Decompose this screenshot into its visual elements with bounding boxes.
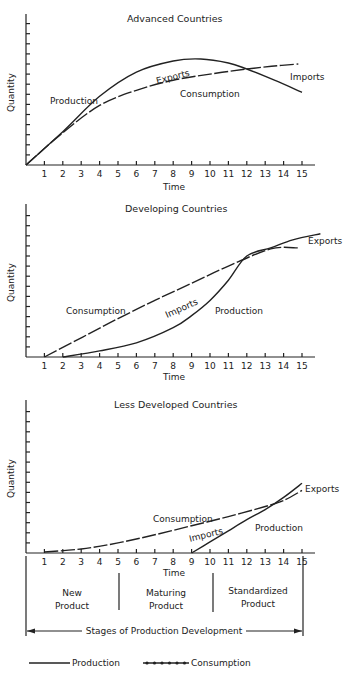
x-tick-label: 8	[170, 361, 176, 371]
stage-new-line2: Product	[55, 601, 90, 611]
series-production	[63, 234, 321, 357]
chart-3: 123456789101112131415	[26, 400, 315, 567]
arrow-right-icon	[294, 629, 302, 634]
stage-standardized-line1: Standardized	[228, 586, 287, 596]
x-tick-label: 2	[60, 361, 66, 371]
x-tick-label: 15	[296, 361, 307, 371]
chart3-xlabel: Time	[162, 568, 185, 578]
x-tick-label: 15	[296, 557, 307, 567]
x-tick-label: 13	[259, 557, 270, 567]
chart2-xlabel: Time	[162, 372, 185, 382]
x-tick-label: 13	[259, 361, 270, 371]
stages-caption: Stages of Production Development	[86, 626, 243, 636]
x-tick-label: 14	[278, 557, 290, 567]
stage-maturing-line1: Maturing	[146, 588, 186, 598]
x-tick-label: 10	[204, 169, 216, 179]
x-tick-label: 11	[223, 361, 234, 371]
chart3-label-consumption: Consumption	[153, 514, 213, 524]
x-tick-label: 8	[170, 557, 176, 567]
chart2-label-imports: Imports	[164, 297, 200, 320]
chart1-label-exports: Exports	[155, 68, 191, 86]
chart3-title: Less Developed Countries	[114, 399, 237, 410]
stage-standardized-line2: Product	[241, 599, 276, 609]
product-life-cycle-figure: 1234567891011121314151234567891011121314…	[0, 0, 348, 679]
chart1-label-production: Production	[50, 96, 98, 106]
chart-2: 123456789101112131415	[26, 204, 320, 371]
x-tick-label: 6	[134, 169, 140, 179]
x-tick-label: 5	[115, 361, 121, 371]
stage-maturing-line2: Product	[149, 601, 184, 611]
x-tick-label: 1	[42, 557, 48, 567]
chart1-title: Advanced Countries	[127, 13, 223, 24]
x-tick-label: 4	[97, 169, 103, 179]
x-tick-label: 6	[134, 557, 140, 567]
x-tick-label: 12	[241, 361, 252, 371]
x-tick-label: 1	[42, 361, 48, 371]
x-tick-label: 2	[60, 169, 66, 179]
x-tick-label: 9	[189, 169, 195, 179]
chart2-ylabel: Quantity	[6, 262, 16, 302]
x-tick-label: 13	[259, 169, 270, 179]
x-tick-label: 3	[78, 169, 84, 179]
x-tick-label: 11	[223, 169, 234, 179]
chart2-label-exports: Exports	[308, 236, 342, 246]
chart1-label-imports: Imports	[290, 72, 325, 82]
chart3-label-exports: Exports	[305, 484, 339, 494]
chart2-label-production: Production	[215, 306, 263, 316]
x-tick-label: 14	[278, 361, 290, 371]
x-tick-label: 9	[189, 557, 195, 567]
x-tick-label: 7	[152, 169, 158, 179]
x-tick-label: 12	[241, 169, 252, 179]
chart3-label-production: Production	[255, 523, 303, 533]
x-tick-label: 3	[78, 557, 84, 567]
chart1-label-consumption: Consumption	[180, 89, 240, 99]
x-tick-label: 8	[170, 169, 176, 179]
stage-new-line1: New	[62, 588, 82, 598]
x-tick-label: 15	[296, 169, 307, 179]
chart1-ylabel: Quantity	[6, 72, 16, 112]
x-tick-label: 14	[278, 169, 290, 179]
legend-consumption-label: Consumption	[191, 658, 251, 668]
x-tick-label: 9	[189, 361, 195, 371]
x-tick-label: 5	[115, 169, 121, 179]
legend-consumption-swatch	[143, 661, 189, 664]
x-tick-label: 11	[223, 557, 234, 567]
x-tick-label: 7	[152, 557, 158, 567]
x-tick-label: 12	[241, 557, 252, 567]
x-tick-label: 2	[60, 557, 66, 567]
x-tick-label: 10	[204, 361, 216, 371]
chart1-xlabel: Time	[162, 182, 185, 192]
series-consumption	[44, 247, 298, 357]
chart2-title: Developing Countries	[125, 203, 227, 214]
arrow-left-icon	[27, 629, 35, 634]
x-tick-label: 1	[42, 169, 48, 179]
x-tick-label: 4	[97, 361, 103, 371]
x-tick-label: 5	[115, 557, 121, 567]
x-tick-label: 3	[78, 361, 84, 371]
chart2-label-consumption: Consumption	[66, 306, 126, 316]
chart3-label-imports: Imports	[188, 526, 224, 544]
chart3-ylabel: Quantity	[6, 458, 16, 498]
x-tick-label: 4	[97, 557, 103, 567]
legend-production-label: Production	[72, 658, 120, 668]
x-tick-label: 10	[204, 557, 216, 567]
x-tick-label: 7	[152, 361, 158, 371]
x-tick-label: 6	[134, 361, 140, 371]
